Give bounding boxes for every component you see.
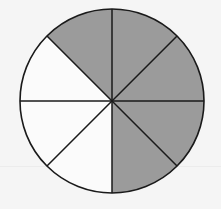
diagram-canvas <box>0 0 221 209</box>
spoke-lines <box>20 9 204 193</box>
fraction-circle <box>0 0 221 209</box>
